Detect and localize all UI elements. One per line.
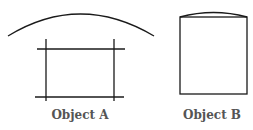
object-b-label: Object B (183, 108, 241, 122)
object-b-rectangle (180, 17, 247, 94)
object-b (180, 13, 247, 95)
object-a-arc (8, 14, 154, 36)
object-b-arc (180, 13, 247, 18)
object-a-label: Object A (51, 108, 108, 122)
object-a (8, 14, 154, 101)
diagram: Object A Object B (0, 0, 253, 130)
